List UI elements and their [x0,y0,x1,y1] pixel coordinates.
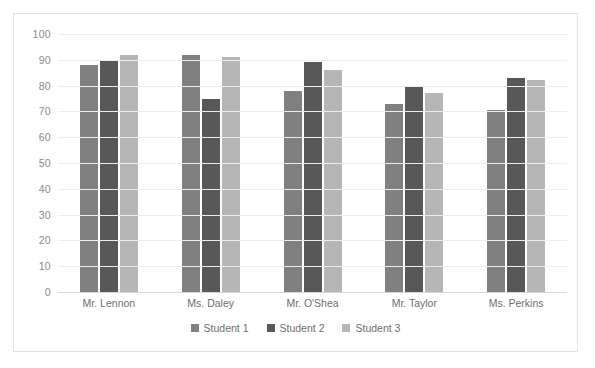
gridline [58,189,567,190]
legend-swatch-icon [267,324,275,332]
x-axis-category-label: Mr. O'Shea [286,297,338,309]
gridline [58,86,567,87]
bar[interactable] [80,65,98,292]
bar[interactable] [202,99,220,293]
bar[interactable] [385,104,403,292]
bar[interactable] [182,55,200,292]
legend-swatch-icon [191,324,199,332]
chart-frame: 1009080706050403020100 Mr. LennonMs. Dal… [13,13,578,352]
gridline [58,60,567,61]
y-axis-tick-label: 60 [39,131,51,143]
x-axis-category-label: Ms. Perkins [489,297,544,309]
bar[interactable] [120,55,138,292]
y-axis-tick-label: 0 [45,286,51,298]
y-axis-tick-label: 100 [33,28,51,40]
gridline [58,34,567,35]
y-axis-tick-label: 80 [39,80,51,92]
bar[interactable] [304,62,322,292]
y-axis-tick-label: 50 [39,157,51,169]
x-axis-category-label: Ms. Daley [187,297,234,309]
y-axis-tick-label: 40 [39,183,51,195]
y-axis-tick-label: 20 [39,234,51,246]
y-axis-tick-label: 70 [39,105,51,117]
y-axis-tick-label: 90 [39,54,51,66]
gridline [58,163,567,164]
legend-label: Student 1 [204,322,249,334]
gridline [58,215,567,216]
gridline [58,266,567,267]
bar[interactable] [100,60,118,292]
plot-area: 1009080706050403020100 [58,34,567,292]
bar[interactable] [507,78,525,292]
legend-label: Student 2 [280,322,325,334]
bar[interactable] [425,93,443,292]
bar[interactable] [222,57,240,292]
gridline [58,240,567,241]
legend-swatch-icon [342,324,350,332]
chart-legend: Student 1Student 2Student 3 [14,322,577,334]
gridline [58,111,567,112]
legend-item[interactable]: Student 2 [267,322,325,334]
x-axis-category-label: Mr. Lennon [83,297,136,309]
axis-baseline [58,292,567,293]
bar[interactable] [284,91,302,292]
y-axis-tick-label: 10 [39,260,51,272]
legend-item[interactable]: Student 1 [191,322,249,334]
bar[interactable] [324,70,342,292]
x-axis-category-label: Mr. Taylor [392,297,437,309]
legend-item[interactable]: Student 3 [342,322,400,334]
x-axis-category-labels: Mr. LennonMs. DaleyMr. O'SheaMr. TaylorM… [58,297,567,317]
legend-label: Student 3 [355,322,400,334]
y-axis-tick-label: 30 [39,209,51,221]
gridline [58,137,567,138]
